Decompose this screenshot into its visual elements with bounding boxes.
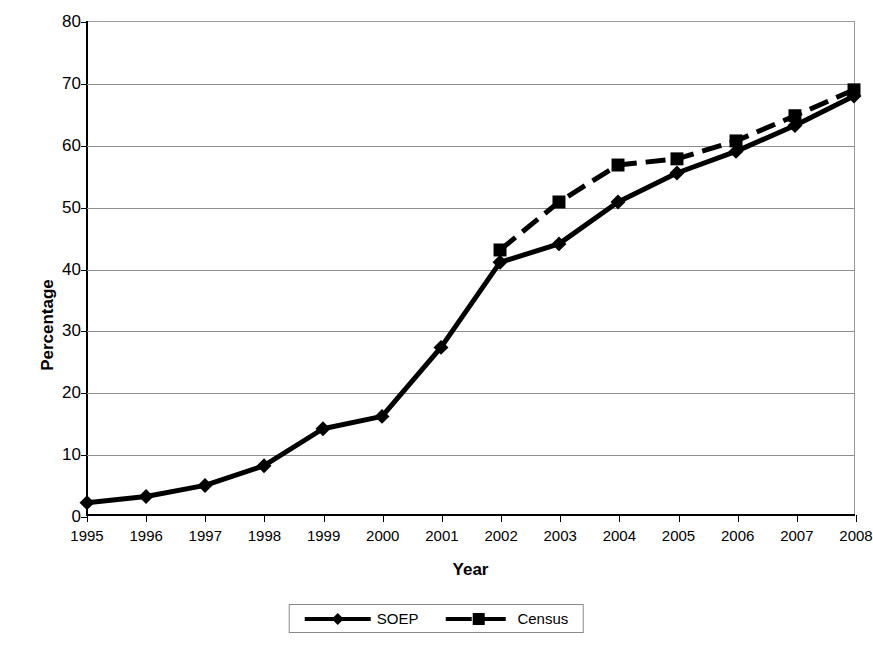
square-marker-icon — [552, 195, 565, 208]
legend-item-census[interactable]: Census — [444, 610, 568, 627]
diamond-marker-icon — [80, 495, 95, 510]
x-tick-label: 1996 — [129, 527, 162, 544]
y-tick-label: 30 — [62, 321, 81, 341]
x-tick-label: 2004 — [603, 527, 636, 544]
series-line-soep — [87, 96, 854, 503]
x-tick-label: 2006 — [721, 527, 754, 544]
plot-area: 01020304050607080 1995199619971998199920… — [86, 21, 855, 516]
x-tick-label: 2003 — [544, 527, 577, 544]
x-tick-mark — [87, 515, 88, 522]
y-tick-label: 10 — [62, 445, 81, 465]
x-tick-label: 1999 — [307, 527, 340, 544]
y-tick-label: 60 — [62, 136, 81, 156]
y-tick-label: 70 — [62, 74, 81, 94]
diamond-marker-icon — [304, 612, 372, 626]
diamond-marker-icon — [139, 489, 154, 504]
x-tick-label: 2001 — [425, 527, 458, 544]
x-tick-label: 2000 — [366, 527, 399, 544]
x-tick-mark — [383, 515, 384, 522]
legend-item-soep[interactable]: SOEP — [304, 610, 419, 627]
y-tick-label: 0 — [72, 507, 81, 527]
chart-legend: SOEP Census — [289, 604, 584, 633]
y-tick-label: 50 — [62, 198, 81, 218]
legend-label-census: Census — [517, 610, 568, 627]
square-marker-icon — [670, 152, 683, 165]
x-tick-mark — [619, 515, 620, 522]
x-tick-label: 2002 — [484, 527, 517, 544]
square-marker-icon — [612, 159, 625, 172]
square-marker-icon — [444, 612, 512, 626]
x-tick-label: 1997 — [189, 527, 222, 544]
x-tick-mark — [679, 515, 680, 522]
x-tick-label: 2008 — [839, 527, 872, 544]
x-tick-label: 2007 — [780, 527, 813, 544]
x-tick-label: 2005 — [662, 527, 695, 544]
square-marker-icon — [788, 109, 801, 122]
y-tick-label: 80 — [62, 12, 81, 32]
x-tick-mark — [146, 515, 147, 522]
square-marker-icon — [494, 244, 507, 257]
x-axis-title: Year — [86, 560, 855, 580]
x-tick-label: 1995 — [70, 527, 103, 544]
square-marker-icon — [730, 134, 743, 147]
x-tick-mark — [501, 515, 502, 522]
x-tick-mark — [738, 515, 739, 522]
y-tick-label: 20 — [62, 383, 81, 403]
x-tick-mark — [264, 515, 265, 522]
legend-label-soep: SOEP — [377, 610, 419, 627]
x-tick-mark — [560, 515, 561, 522]
y-tick-label: 40 — [62, 260, 81, 280]
x-tick-mark — [324, 515, 325, 522]
diamond-marker-icon — [198, 478, 213, 493]
x-tick-mark — [856, 515, 857, 522]
x-tick-mark — [442, 515, 443, 522]
x-tick-label: 1998 — [248, 527, 281, 544]
y-axis-title: Percentage — [38, 279, 58, 371]
square-marker-icon — [848, 83, 861, 96]
x-tick-mark — [797, 515, 798, 522]
series-layer — [87, 22, 854, 515]
x-tick-mark — [205, 515, 206, 522]
